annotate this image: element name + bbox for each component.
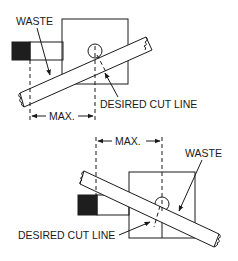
top-cut-line-arrow (105, 73, 118, 97)
diagram-canvas: MAX. WASTE DESIRED CUT LINE MAX. WASTE D (0, 0, 238, 261)
top-waste-arrow (37, 28, 50, 75)
top-diagram: MAX. WASTE DESIRED CUT LINE (12, 15, 197, 122)
bottom-stop-block (78, 195, 97, 215)
bottom-waste-label: WASTE (185, 147, 222, 159)
top-board (20, 37, 152, 107)
bottom-cut-line-arrow (119, 222, 150, 235)
bottom-cut-line-label: DESIRED CUT LINE (18, 229, 115, 241)
top-stop-block (12, 42, 30, 60)
bottom-waste-arrow (179, 160, 202, 211)
bottom-max-label: MAX. (115, 135, 141, 147)
top-cut-line-label: DESIRED CUT LINE (100, 98, 197, 110)
top-max-label: MAX. (49, 110, 75, 122)
bottom-diagram: MAX. WASTE DESIRED CUT LINE (18, 135, 222, 247)
top-waste-label: WASTE (16, 15, 53, 27)
top-stop-bar (30, 42, 63, 60)
